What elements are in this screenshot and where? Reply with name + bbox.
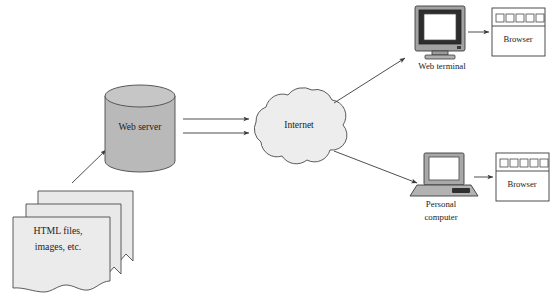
web-server-label: Web server: [119, 122, 163, 132]
browser-toolbar-buttons-top[interactable]: [496, 14, 544, 22]
connector-internet-to-web-terminal: [334, 58, 405, 103]
crt-monitor-icon: Web terminal: [415, 6, 466, 71]
toolbar-button-5[interactable]: [536, 14, 544, 22]
monitor-stand-neck: [432, 51, 448, 55]
browser-toolbar-buttons-bottom[interactable]: [500, 159, 548, 167]
documents-label-line2: images, etc.: [35, 241, 82, 252]
toolbar-button-1[interactable]: [496, 14, 504, 22]
connector-documents-to-web-server: [72, 150, 106, 183]
toolbar-button-4[interactable]: [530, 159, 538, 167]
toolbar-button-5[interactable]: [540, 159, 548, 167]
toolbar-button-2[interactable]: [510, 159, 518, 167]
toolbar-button-2[interactable]: [506, 14, 514, 22]
documents-label-line1: HTML files,: [33, 225, 82, 236]
monitor-power-led: [457, 46, 461, 49]
monitor-stand-base: [425, 55, 455, 59]
browser-window-icon-bottom[interactable]: Browser: [496, 153, 549, 201]
personal-computer-label-line1: Personal: [426, 199, 457, 209]
laptop-trackpad: [452, 188, 470, 193]
toolbar-button-3[interactable]: [516, 14, 524, 22]
toolbar-button-3[interactable]: [520, 159, 528, 167]
cloud-icon: Internet: [254, 88, 347, 164]
laptop-screen: [429, 157, 459, 180]
document-stack-icon: HTML files, images, etc.: [13, 191, 133, 292]
connector-internet-to-personal-computer: [334, 151, 417, 183]
laptop-icon: Personal computer: [410, 153, 478, 222]
cylinder-top: [105, 85, 175, 107]
personal-computer-label-line2: computer: [424, 212, 457, 222]
network-diagram: HTML files, images, etc. Web server Inte…: [0, 0, 556, 296]
monitor-screen: [424, 14, 456, 40]
toolbar-button-4[interactable]: [526, 14, 534, 22]
toolbar-button-1[interactable]: [500, 159, 508, 167]
browser-label-top: Browser: [503, 34, 532, 44]
web-terminal-label: Web terminal: [418, 61, 466, 71]
browser-window-icon-top[interactable]: Browser: [492, 8, 545, 56]
browser-label-bottom: Browser: [507, 179, 536, 189]
cylinder-database-icon: Web server: [105, 85, 175, 172]
internet-label: Internet: [284, 120, 314, 130]
